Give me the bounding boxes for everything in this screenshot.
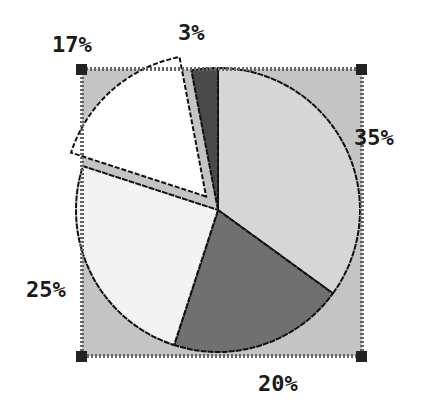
data-label-3[interactable]: 3% (178, 20, 205, 45)
data-label-17[interactable]: 17% (52, 32, 92, 57)
data-label-25[interactable]: 25% (26, 277, 66, 302)
data-label-20[interactable]: 20% (258, 371, 298, 396)
resize-handle-bottom-left[interactable] (76, 351, 87, 362)
data-label-35[interactable]: 35% (354, 125, 394, 150)
resize-handle-bottom-right[interactable] (356, 351, 367, 362)
resize-handle-top-right[interactable] (356, 64, 367, 75)
resize-handle-top-left[interactable] (76, 64, 87, 75)
pie-chart[interactable]: 35% 20% 25% 17% 3% (0, 0, 438, 408)
